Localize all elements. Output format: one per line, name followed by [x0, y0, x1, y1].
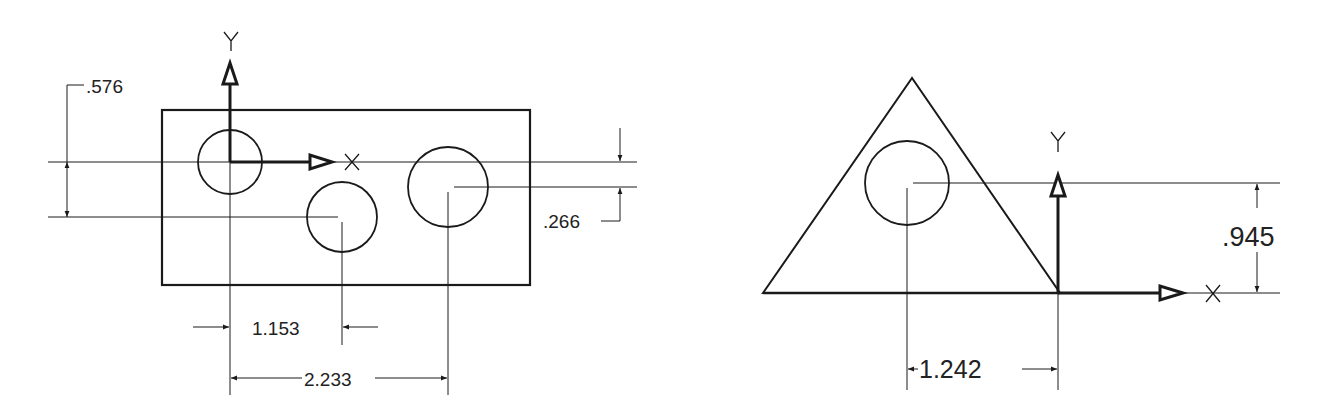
x-arrowhead-icon [1160, 286, 1183, 300]
dimension-label-576: .576 [86, 76, 123, 97]
y-axis-mark-icon [1051, 132, 1065, 152]
dimension-label-1242: 1.242 [919, 355, 982, 383]
y-axis-mark-icon [224, 32, 238, 51]
y-arrowhead-icon [223, 63, 237, 84]
leader-line-266 [601, 188, 620, 221]
dimension-label-1153: 1.153 [252, 318, 300, 339]
y-arrowhead-icon [1051, 175, 1065, 196]
plate-rectangle [162, 110, 530, 285]
dimension-label-266: .266 [543, 211, 580, 232]
figure-right [763, 78, 1280, 390]
x-arrowhead-icon [310, 155, 332, 169]
dimension-label-2233: 2.233 [304, 369, 352, 390]
plate-triangle [763, 78, 1060, 293]
dimension-label-945: .945 [1222, 222, 1275, 252]
leader-line-576 [67, 85, 84, 162]
drawing-canvas: .576 .266 1.153 2.233 .945 1.242 [0, 0, 1332, 420]
